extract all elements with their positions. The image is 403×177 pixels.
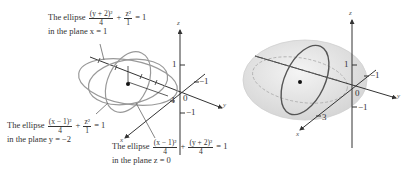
tick-y-neg1: −1: [199, 76, 209, 86]
axis-label-y: y: [223, 101, 226, 109]
tick-origin: 0: [183, 93, 188, 103]
tick-z-neg1-right: −1: [358, 102, 368, 112]
axis-label-x-right: x: [296, 130, 299, 138]
plus: +: [117, 12, 122, 22]
tick-origin-right: 0: [355, 88, 360, 98]
label-prefix: The ellipse: [7, 120, 45, 130]
plus: +: [76, 120, 81, 130]
label-prefix: The ellipse: [48, 12, 86, 22]
tick-x-3-right: 3: [322, 112, 327, 122]
axis-label-x: x: [120, 136, 123, 144]
label-ellipse-z0: The ellipse (x − 1)²4 + (y + 2)²4 = 1 in…: [112, 139, 227, 165]
tick-y-neg1-right: −1: [370, 70, 380, 80]
fraction: (y + 2)²4: [188, 139, 213, 156]
rhs: = 1: [216, 141, 227, 151]
axis-label-z: z: [177, 19, 180, 27]
ellipsoid: [243, 40, 367, 120]
label-plane: in the plane z = 0: [112, 155, 227, 165]
center-point-right: [298, 80, 302, 84]
denominator: 4: [188, 148, 213, 156]
rhs: = 1: [94, 120, 105, 130]
label-prefix: The ellipse: [112, 141, 150, 151]
label-plane: in the plane y = −2: [7, 134, 105, 144]
center-point: [126, 82, 130, 86]
fraction: (y + 2)²4: [89, 10, 114, 27]
denominator: 1: [124, 19, 132, 27]
fraction: (x − 1)²4: [48, 118, 73, 135]
label-ellipse-x1: The ellipse (y + 2)²4 + z²1 = 1 in the p…: [48, 10, 146, 36]
fraction: (x − 1)²4: [153, 139, 178, 156]
tick-z-1-right: 1: [344, 59, 349, 69]
tick-x-1: 1: [171, 95, 176, 105]
tick-z-neg1: −1: [186, 107, 196, 117]
axis-label-y-right: y: [397, 92, 400, 100]
denominator: 1: [83, 127, 91, 135]
plus: +: [181, 141, 186, 151]
right-figure: [243, 20, 396, 148]
x-axis: [125, 74, 205, 138]
fraction: z²1: [124, 10, 132, 27]
tick-z-1: 1: [172, 59, 177, 69]
axis-label-z-right: z: [349, 9, 352, 17]
rhs: = 1: [135, 12, 146, 22]
label-ellipse-y-neg2: The ellipse (x − 1)²4 + z²1 = 1 in the p…: [7, 118, 105, 144]
label-plane: in the plane x = 1: [48, 26, 146, 36]
fraction: z²1: [83, 118, 91, 135]
